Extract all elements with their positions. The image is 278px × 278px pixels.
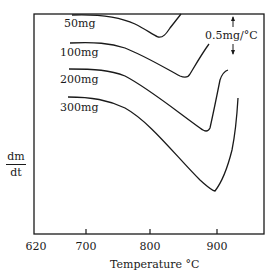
y-axis-label: dm dt	[6, 150, 26, 179]
x-tick-900: 900	[207, 240, 228, 253]
fraction-bar	[6, 164, 26, 165]
x-tick-620: 620	[26, 240, 47, 253]
arrow-up-icon	[231, 16, 235, 21]
series-label-100mg: 100mg	[60, 46, 98, 59]
x-tick-700: 700	[76, 240, 97, 253]
arrow-down-icon	[231, 50, 235, 55]
x-axis-label: Temperature °C	[110, 258, 199, 271]
series-label-300mg: 300mg	[60, 101, 98, 114]
y-axis-label-denominator: dt	[6, 166, 26, 179]
series-label-200mg: 200mg	[60, 73, 98, 86]
scale-bar-label: 0.5mg/°C	[205, 29, 258, 42]
y-axis-label-numerator: dm	[6, 150, 26, 163]
x-tick-800: 800	[140, 240, 161, 253]
series-label-50mg: 50mg	[64, 17, 95, 30]
